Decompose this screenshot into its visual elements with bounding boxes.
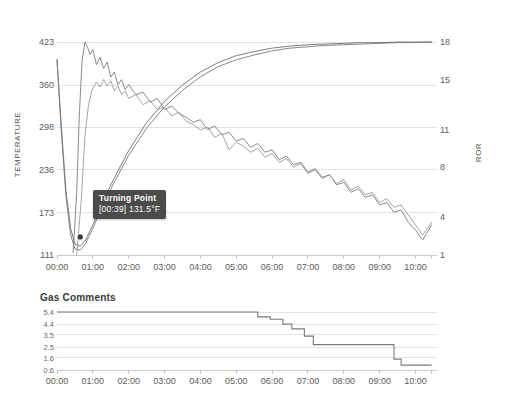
time-tick-label: 03:00	[153, 262, 176, 272]
time-tick-label: 02:00	[117, 262, 140, 272]
time-tick-label: 04:00	[189, 262, 212, 272]
temperature-tick-label: 236	[24, 165, 54, 175]
temperature-tick-label: 423	[24, 37, 54, 47]
temperature-tick-label: 298	[24, 122, 54, 132]
ror-tick-label: 15	[440, 75, 470, 85]
ror-tick-label: 11	[440, 125, 470, 135]
gas-time-tick-label: 05:00	[225, 376, 248, 386]
gas-axis-ticks: 5.44.43.52.51.60.6	[28, 310, 54, 372]
time-tick-label: 09:00	[368, 262, 391, 272]
gas-tick-label: 3.5	[28, 330, 54, 339]
ror-tick-label: 8	[440, 162, 470, 172]
gas-time-tick-label: 09:00	[368, 376, 391, 386]
ror-axis-ticks: 181511841	[440, 0, 470, 285]
gas-tick-label: 2.5	[28, 343, 54, 352]
temperature-axis-title: TEMPERATURE	[13, 105, 22, 185]
time-axis-ticks: 00:0001:0002:0003:0004:0005:0006:0007:00…	[0, 262, 520, 278]
ror-tick-label: 1	[440, 250, 470, 260]
gas-tick-label: 1.6	[28, 353, 54, 362]
gas-time-tick-label: 07:00	[297, 376, 320, 386]
temperature-tick-label: 173	[24, 208, 54, 218]
time-tick-label: 06:00	[261, 262, 284, 272]
time-tick-label: 08:00	[333, 262, 356, 272]
tooltip-value: [00:39] 131.5°F	[99, 204, 160, 215]
gas-time-tick-label: 00:00	[46, 376, 69, 386]
gas-plot-area	[0, 292, 520, 417]
gas-tick-label: 5.4	[28, 308, 54, 317]
time-tick-label: 10:00	[404, 262, 427, 272]
time-tick-label: 00:00	[46, 262, 69, 272]
gas-time-tick-label: 02:00	[117, 376, 140, 386]
gas-time-axis-ticks: 00:0001:0002:0003:0004:0005:0006:0007:00…	[0, 376, 520, 390]
gas-comments-chart: Gas Comments 5.44.43.52.51.60.6 00:0001:…	[0, 292, 520, 417]
temperature-axis-ticks: 423360298236173111	[24, 0, 54, 285]
gas-time-tick-label: 10:00	[404, 376, 427, 386]
temperature-tick-label: 360	[24, 80, 54, 90]
gas-time-tick-label: 08:00	[333, 376, 356, 386]
gas-comments-title: Gas Comments	[40, 292, 116, 303]
ror-tick-label: 4	[440, 212, 470, 222]
time-tick-label: 07:00	[297, 262, 320, 272]
time-tick-label: 01:00	[82, 262, 105, 272]
roast-temperature-chart: TEMPERATURE ROR 423360298236173111 18151…	[0, 0, 520, 285]
roast-profile-page: TEMPERATURE ROR 423360298236173111 18151…	[0, 0, 520, 417]
tooltip-title: Turning Point	[99, 193, 160, 204]
gas-tick-label: 0.6	[28, 366, 54, 375]
gas-time-tick-label: 01:00	[82, 376, 105, 386]
gas-tick-label: 4.4	[28, 320, 54, 329]
gas-time-tick-label: 03:00	[153, 376, 176, 386]
turning-point-tooltip: Turning Point [00:39] 131.5°F	[93, 190, 166, 219]
time-tick-label: 05:00	[225, 262, 248, 272]
temperature-tick-label: 111	[24, 250, 54, 260]
gas-time-tick-label: 06:00	[261, 376, 284, 386]
gas-time-tick-label: 04:00	[189, 376, 212, 386]
ror-axis-title: ROR	[474, 123, 483, 183]
ror-tick-label: 18	[440, 37, 470, 47]
